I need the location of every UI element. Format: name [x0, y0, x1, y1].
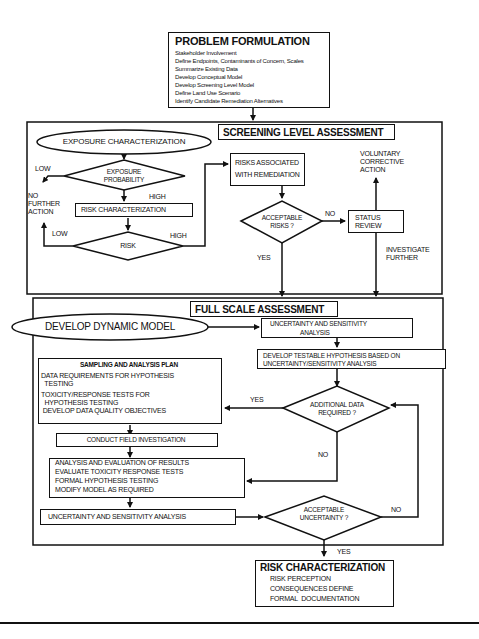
label-yes-screening: YES	[257, 254, 270, 262]
pf-item: Define Land Use Scenario	[175, 89, 240, 97]
risk-characterization-box: RISK CHARACTERIZATION	[75, 203, 193, 217]
pf-item: Summarize Existing Data	[175, 65, 238, 73]
sampling-plan-box: SAMPLING AND ANALYSIS PLAN DATA REQUIREM…	[38, 358, 222, 424]
testable-hypothesis-box: DEVELOP TESTABLE HYPOTHESIS BASED ON UNC…	[257, 349, 446, 369]
investigate-further: INVESTIGATE FURTHER	[386, 246, 430, 262]
pf-item: Define Endpoints, Contaminants of Concer…	[175, 57, 304, 65]
pf-item: Stakeholder Involvement	[175, 49, 236, 57]
pf-item: Identify Candidate Remediation Alternati…	[175, 97, 283, 105]
uncertainty-bottom-box: UNCERTAINTY AND SENSITIVITY ANALYSIS	[40, 509, 236, 525]
uncertainty-top-box: UNCERTAINTY AND SENSITIVITY ANALYSIS	[261, 318, 413, 338]
problem-formulation-title: PROBLEM FORMULATION	[175, 35, 310, 47]
full-scale-title: FULL SCALE ASSESSMENT	[195, 304, 324, 315]
status-review-box: STATUS REVIEW	[348, 210, 404, 233]
exposure-probability: EXPOSURE PROBABILITY	[94, 168, 154, 184]
label-no-uncertainty: NO	[391, 506, 401, 514]
pf-item: Develop Screening Level Model	[175, 81, 254, 89]
label-no-additional: NO	[318, 451, 328, 459]
conduct-field-box: CONDUCT FIELD INVESTIGATION	[56, 433, 218, 447]
label-high-top: HIGH	[149, 193, 166, 201]
no-further-action: NO FURTHER ACTION	[28, 192, 60, 216]
pf-item: Develop Conceptual Model	[175, 73, 242, 81]
label-low-top: LOW	[35, 165, 50, 173]
label-yes-additional: YES	[250, 396, 263, 404]
exposure-characterization: EXPOSURE CHARACTERIZATION	[42, 137, 206, 146]
screening-title-box: SCREENING LEVEL ASSESSMENT	[218, 124, 395, 140]
label-high-bottom: HIGH	[170, 232, 187, 240]
acceptable-uncertainty: ACCEPTABLE UNCERTAINTY ?	[284, 506, 364, 522]
analysis-results-box: ANALYSIS AND EVALUATION OF RESULTS EVALU…	[49, 458, 245, 498]
additional-data-required: ADDITIONAL DATA REQUIRED ?	[297, 401, 377, 417]
label-no-screening: NO	[325, 210, 335, 218]
full-scale-title-box: FULL SCALE ASSESSMENT	[190, 301, 338, 317]
risk-characterization-final-box: RISK CHARACTERIZATION RISK PERCEPTION CO…	[255, 560, 394, 607]
acceptable-risks: ACCEPTABLE RISKS ?	[252, 214, 312, 230]
problem-formulation-box: PROBLEM FORMULATION Stakeholder Involvem…	[168, 32, 330, 108]
label-low-bottom: LOW	[52, 230, 67, 238]
risks-remediation-box: RISKS ASSOCIATED WITH REMEDIATION	[230, 153, 305, 186]
screening-title: SCREENING LEVEL ASSESSMENT	[223, 127, 383, 138]
develop-dynamic-model: DEVELOP DYNAMIC MODEL	[18, 321, 202, 332]
voluntary-corrective-action: VOLUNTARY CORRECTIVE ACTION	[360, 150, 404, 174]
label-yes-final: YES	[337, 548, 350, 556]
risk-decision: RISK	[108, 242, 148, 250]
